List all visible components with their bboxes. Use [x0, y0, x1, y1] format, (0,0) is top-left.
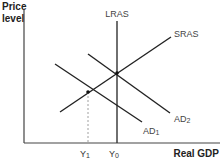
ad1-label: AD1 — [143, 126, 160, 136]
equilibrium-point-1 — [86, 90, 90, 94]
y0-tick-label: Y0 — [109, 149, 119, 159]
equilibrium-point-0 — [115, 71, 119, 75]
ad-as-chart: LRAS SRAS AD2 AD1 Y1 Y0 — [0, 0, 221, 164]
ad2-line — [88, 54, 170, 113]
sras-label: SRAS — [174, 29, 199, 39]
lras-label: LRAS — [105, 9, 129, 19]
y1-tick-label: Y1 — [80, 149, 90, 159]
ad2-label: AD2 — [174, 114, 191, 124]
ad1-line — [55, 64, 142, 122]
